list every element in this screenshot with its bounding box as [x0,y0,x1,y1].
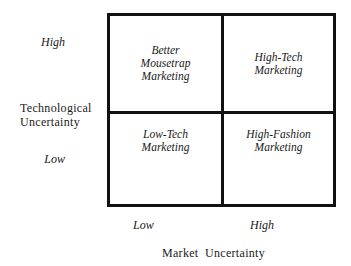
quadrant-text: Mousetrap [141,57,191,70]
x-axis-low-label: Low [133,218,154,233]
quadrant-text: Better [141,44,191,57]
quadrant-better-mousetrap: Better Mousetrap Marketing [110,16,221,111]
x-axis-high-label: High [250,218,274,233]
quadrant-text: Marketing [246,141,311,154]
x-axis-title: Market Uncertainty [162,246,265,260]
y-axis-title-line2: Uncertainty [20,115,92,129]
quadrant-text: Marketing [142,141,190,154]
y-axis-low-label: Low [5,152,65,167]
quadrant-text: High-Fashion [246,128,311,141]
quadrant-text: High-Tech [254,51,302,64]
quadrant-text: Marketing [254,64,302,77]
y-axis-title-line1: Technological [20,101,92,115]
quadrant-text: Low-Tech [142,128,190,141]
quadrant-text: Marketing [141,70,191,83]
quadrant-high-tech: High-Tech Marketing [224,16,333,111]
matrix-grid: Better Mousetrap Marketing High-Tech Mar… [107,13,336,207]
y-axis-high-label: High [5,35,65,50]
quadrant-low-tech: Low-Tech Marketing [110,114,221,204]
quadrant-high-fashion: High-Fashion Marketing [224,114,333,204]
y-axis-title: Technological Uncertainty [20,101,92,129]
